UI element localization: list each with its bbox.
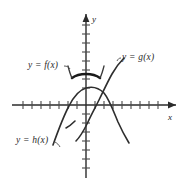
x-axis-label: x: [167, 112, 172, 122]
curve-label-f: y = f(x): [28, 60, 58, 70]
graph-figure: y x y = f(x) y = g(x) y = h(x): [0, 0, 191, 191]
y-axis: [82, 14, 90, 178]
leader-g: [117, 58, 121, 61]
graph-canvas: y x: [0, 0, 191, 191]
x-axis: [12, 101, 176, 109]
curve-label-g: y = g(x): [122, 52, 154, 62]
curve-g-lower-hook: [66, 121, 75, 128]
leader-h: [55, 142, 60, 147]
x-axis-arrowhead: [168, 102, 176, 109]
y-axis-arrowhead: [83, 14, 90, 22]
curve-label-h: y = h(x): [16, 135, 48, 145]
curve-f-right-tail: [100, 66, 104, 78]
y-axis-label: y: [91, 14, 96, 24]
